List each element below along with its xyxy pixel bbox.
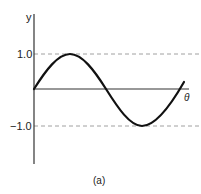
sine-chart: y θ 1.0 −1.0 (a) <box>0 0 201 194</box>
x-axis-label: θ <box>184 92 190 103</box>
figure-caption: (a) <box>93 175 105 186</box>
y-axis-label: y <box>26 11 32 23</box>
tick-label-negative: −1.0 <box>10 120 32 132</box>
sine-curve <box>34 54 184 126</box>
tick-label-positive: 1.0 <box>17 48 32 60</box>
